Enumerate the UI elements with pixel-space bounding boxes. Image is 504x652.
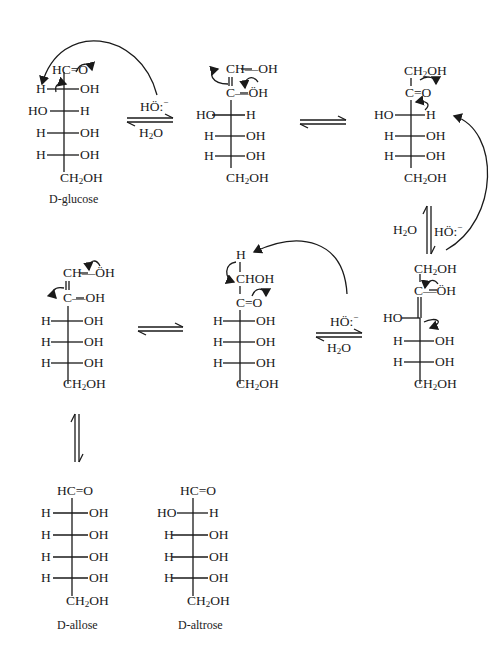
allose-c2-right: OH: [89, 506, 109, 520]
ketose3-h: H: [236, 248, 246, 262]
enediol3-c3-right: OH: [84, 314, 104, 328]
fructose-c3-left: HO: [374, 108, 394, 122]
enediol1-c4-right: OH: [246, 129, 266, 143]
allose-c5-left: H: [41, 571, 51, 585]
fructose-c1: CH2OH: [404, 64, 447, 78]
altrose-c3-left: H: [164, 528, 174, 542]
enediol2-c5-right: OH: [435, 355, 455, 369]
allose-c4-right: OH: [89, 550, 109, 564]
fructose-c5-left: H: [384, 149, 394, 163]
enediol3-c5-left: H: [41, 356, 51, 370]
altrose-c4-left: H: [164, 550, 174, 564]
epimerization-diagram: HC=O H OH HO H H OH H OH CH2OH D-glucose…: [0, 0, 504, 652]
ketose3-c2: C=O: [236, 296, 262, 310]
glucose-aldehyde: HC=O: [52, 63, 88, 77]
water-label-1: H2O: [139, 125, 163, 141]
enediol1-c3-left: HO: [196, 108, 216, 122]
fructose-c6: CH2OH: [404, 171, 447, 185]
fructose-c3-right: H: [426, 108, 436, 122]
ketose3-c4-left: H: [213, 335, 223, 349]
enediol3-c5-right: OH: [84, 356, 104, 370]
enediol1-c5-left: H: [204, 149, 214, 163]
enediol2-c6: CH2OH: [414, 377, 457, 391]
fructose-c4-right: OH: [426, 129, 446, 143]
glucose-c4-left: H: [36, 126, 46, 140]
allose-aldehyde: HC=O: [57, 484, 93, 498]
water-label-2: H2O: [393, 222, 417, 238]
allose-c6: CH2OH: [66, 594, 109, 608]
hydroxide-label-1: HÖ:−: [140, 97, 168, 115]
enediol1-c2: C—ÖH: [226, 86, 268, 100]
ketose3-c3-right: OH: [256, 314, 276, 328]
water-label-3: H2O: [327, 340, 351, 356]
glucose-c2-right: OH: [80, 82, 100, 96]
altrose-c6: CH2OH: [187, 594, 230, 608]
ketose3-c3-left: H: [213, 314, 223, 328]
allose-c3-left: H: [41, 528, 51, 542]
hydroxide-label-2: HÖ:−: [434, 222, 462, 240]
enediol2-c1: CH2OH: [414, 262, 457, 276]
altrose-c4-right: OH: [209, 550, 229, 564]
ketose3-c6: CH2OH: [236, 377, 279, 391]
enediol2-c5-left: H: [393, 355, 403, 369]
glucose-c2-left: H: [36, 82, 46, 96]
allose-c3-right: OH: [89, 528, 109, 542]
caption-d-allose: D-allose: [57, 618, 98, 633]
glucose-c3-right: H: [80, 104, 90, 118]
enediol1-c6: CH2OH: [226, 171, 269, 185]
ketose3-c5-left: H: [213, 356, 223, 370]
caption-d-altrose: D-altrose: [178, 618, 223, 633]
allose-c4-left: H: [41, 550, 51, 564]
altrose-c5-left: H: [164, 571, 174, 585]
enediol3-c1: CH—ÖH: [63, 266, 115, 280]
fructose-c2: C=O: [405, 86, 431, 100]
altrose-aldehyde: HC=O: [180, 484, 216, 498]
allose-c5-right: OH: [89, 571, 109, 585]
enediol1-c5-right: OH: [246, 149, 266, 163]
enediol3-c4-right: OH: [84, 335, 104, 349]
enediol1-c4-left: H: [204, 129, 214, 143]
enediol2-c3-left: HO: [383, 311, 403, 325]
glucose-c5-right: OH: [80, 148, 100, 162]
ketose3-c4-right: OH: [256, 335, 276, 349]
fructose-c5-right: OH: [426, 149, 446, 163]
altrose-c2-left: HO: [157, 506, 177, 520]
enediol3-c4-left: H: [41, 335, 51, 349]
caption-d-glucose: D-glucose: [49, 192, 98, 207]
enediol1-c1: CH—OH: [226, 62, 278, 76]
enediol3-c2: C—OH: [63, 291, 105, 305]
enediol2-c4-left: H: [393, 334, 403, 348]
altrose-c3-right: OH: [209, 528, 229, 542]
enediol1-c3-right: H: [246, 108, 256, 122]
ketose3-c5-right: OH: [256, 356, 276, 370]
enediol3-c3-left: H: [41, 314, 51, 328]
hydroxide-label-3: HÖ:−: [330, 312, 358, 330]
enediol3-c6: CH2OH: [63, 377, 106, 391]
glucose-c6: CH2OH: [60, 171, 103, 185]
altrose-c2-right: H: [209, 506, 219, 520]
allose-c2-left: H: [41, 506, 51, 520]
enediol2-c4-right: OH: [435, 334, 455, 348]
glucose-c4-right: OH: [80, 126, 100, 140]
fructose-c4-left: H: [384, 129, 394, 143]
glucose-c5-left: H: [36, 148, 46, 162]
altrose-c5-right: OH: [209, 571, 229, 585]
ketose3-c1: CHOH: [236, 272, 274, 286]
enediol2-c2: C—ÖH: [414, 284, 456, 298]
glucose-c3-left: HO: [28, 104, 48, 118]
